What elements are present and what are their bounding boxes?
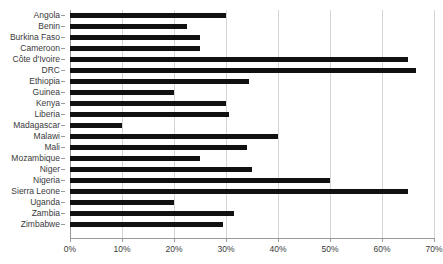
- y-label-kenya: Kenya: [36, 98, 60, 109]
- bar-liberia: [70, 112, 229, 117]
- bar-guinea: [70, 90, 174, 95]
- x-axis-line: [70, 238, 435, 239]
- bar-row: [70, 120, 434, 131]
- x-tick-mark: [122, 238, 123, 242]
- y-tick-mark: [61, 202, 65, 203]
- bar-row: [70, 43, 434, 54]
- x-label-60%: 60%: [373, 244, 390, 255]
- y-label-ethiopia: Ethiopia: [29, 76, 60, 87]
- bar-madagascar: [70, 123, 122, 128]
- y-tick-mark: [61, 147, 65, 148]
- bar-angola: [70, 13, 226, 18]
- bar-burkina-faso: [70, 35, 200, 40]
- y-label-guinea: Guinea: [33, 87, 60, 98]
- y-tick-mark: [61, 59, 65, 60]
- bar-row: [70, 32, 434, 43]
- bar-row: [70, 153, 434, 164]
- bar-row: [70, 175, 434, 186]
- y-tick-mark: [61, 48, 65, 49]
- bar-row: [70, 54, 434, 65]
- bar-row: [70, 186, 434, 197]
- bar-row: [70, 131, 434, 142]
- x-tick-mark: [382, 238, 383, 242]
- x-tick-mark: [330, 238, 331, 242]
- x-tick-mark: [226, 238, 227, 242]
- y-label-uganda: Uganda: [30, 197, 60, 208]
- bar-row: [70, 87, 434, 98]
- bar-c-te-d-ivoire: [70, 57, 408, 62]
- x-tick-mark: [70, 238, 71, 242]
- bar-ethiopia: [70, 79, 249, 84]
- bar-malawi: [70, 134, 278, 139]
- x-tick-mark: [434, 238, 435, 242]
- y-tick-mark: [61, 70, 65, 71]
- bar-row: [70, 65, 434, 76]
- y-label-burkina-faso: Burkina Faso: [10, 32, 60, 43]
- bar-kenya: [70, 101, 226, 106]
- bar-row: [70, 208, 434, 219]
- bar-row: [70, 98, 434, 109]
- y-tick-mark: [61, 37, 65, 38]
- y-label-cameroon: Cameroon: [20, 43, 60, 54]
- bar-row: [70, 197, 434, 208]
- y-label-niger: Niger: [40, 164, 60, 175]
- bar-row: [70, 21, 434, 32]
- y-tick-mark: [61, 158, 65, 159]
- y-tick-mark: [61, 180, 65, 181]
- y-tick-mark: [61, 224, 65, 225]
- y-tick-mark: [61, 103, 65, 104]
- y-label-sierra-leone: Sierra Leone: [11, 186, 60, 197]
- x-label-20%: 20%: [165, 244, 182, 255]
- y-label-benin: Benin: [38, 21, 60, 32]
- y-label-liberia: Liberia: [34, 109, 60, 120]
- y-tick-mark: [61, 169, 65, 170]
- bar-row: [70, 142, 434, 153]
- y-label-drc: DRC: [42, 65, 60, 76]
- y-label-mali: Mali: [44, 142, 60, 153]
- y-tick-mark: [61, 114, 65, 115]
- bar-sierra-leone: [70, 189, 408, 194]
- y-label-c-te-d-ivoire: Côte d'Ivoire: [13, 54, 60, 65]
- bar-row: [70, 109, 434, 120]
- y-label-zimbabwe: Zimbabwe: [21, 219, 60, 230]
- bar-row: [70, 219, 434, 230]
- bar-row: [70, 164, 434, 175]
- bar-uganda: [70, 200, 174, 205]
- bar-benin: [70, 24, 187, 29]
- x-label-50%: 50%: [321, 244, 338, 255]
- bar-row: [70, 76, 434, 87]
- bar-mozambique: [70, 156, 200, 161]
- bar-niger: [70, 167, 252, 172]
- bar-drc: [70, 68, 416, 73]
- y-label-malawi: Malawi: [34, 131, 60, 142]
- bar-cameroon: [70, 46, 200, 51]
- x-label-10%: 10%: [113, 244, 130, 255]
- x-label-0%: 0%: [64, 244, 76, 255]
- gridline-70%: [434, 10, 435, 238]
- bar-zimbabwe: [70, 222, 223, 227]
- y-tick-mark: [61, 213, 65, 214]
- x-tick-mark: [174, 238, 175, 242]
- y-tick-mark: [61, 125, 65, 126]
- x-tick-mark: [278, 238, 279, 242]
- bar-row: [70, 10, 434, 21]
- x-label-40%: 40%: [269, 244, 286, 255]
- x-label-70%: 70%: [425, 244, 442, 255]
- y-label-nigeria: Nigeria: [33, 175, 60, 186]
- plot-area: [70, 10, 434, 238]
- bar-nigeria: [70, 178, 330, 183]
- y-tick-mark: [61, 26, 65, 27]
- y-tick-mark: [61, 191, 65, 192]
- y-tick-mark: [61, 92, 65, 93]
- y-tick-mark: [61, 81, 65, 82]
- y-tick-mark: [61, 136, 65, 137]
- y-label-angola: Angola: [34, 10, 60, 21]
- y-label-madagascar: Madagascar: [13, 120, 60, 131]
- y-label-mozambique: Mozambique: [11, 153, 60, 164]
- y-label-zambia: Zambia: [32, 208, 60, 219]
- x-label-30%: 30%: [217, 244, 234, 255]
- bar-mali: [70, 145, 247, 150]
- bar-zambia: [70, 211, 234, 216]
- y-tick-mark: [61, 15, 65, 16]
